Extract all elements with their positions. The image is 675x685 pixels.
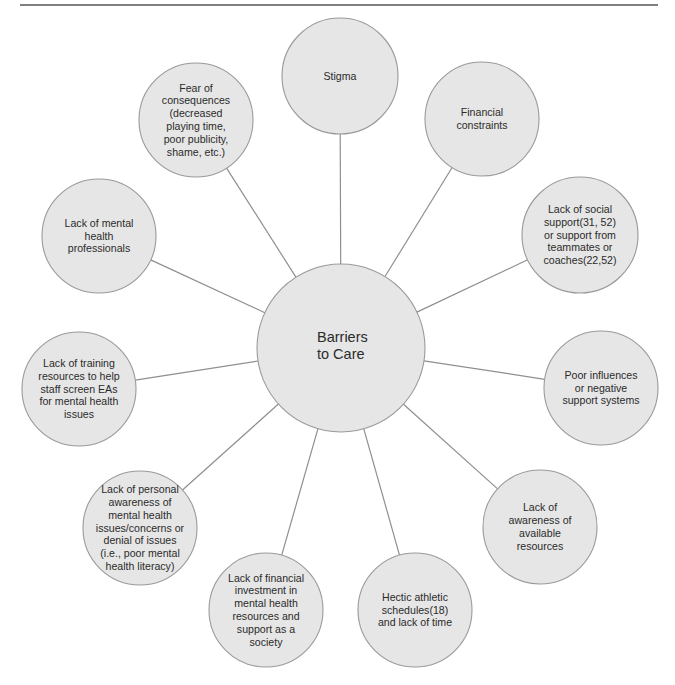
node-label-line: awareness of: [108, 496, 171, 508]
node-label-line: Hectic athletic: [382, 591, 449, 603]
node-label-line: issues: [64, 408, 94, 420]
node-label-line: support(31, 52): [544, 216, 616, 228]
node-label-line: health literacy): [106, 560, 175, 572]
node-label-line: constraints: [456, 119, 507, 131]
node-label-line: shame, etc.): [167, 146, 225, 158]
barriers-to-care-diagram: StigmaFinancialconstraintsLack of social…: [0, 0, 675, 685]
node-label-line: resources to help: [38, 370, 119, 382]
node-label-line: Lack of personal: [101, 483, 179, 495]
node-label: Lack of personalawareness ofmental healt…: [96, 483, 185, 572]
connector-financial-investment: [282, 429, 318, 555]
node-label-line: Poor influences: [564, 369, 637, 381]
node-label: Lack of socialsupport(31, 52)or support …: [543, 203, 616, 266]
node-label-line: resources and: [232, 610, 299, 622]
connector-mental-health-professionals: [151, 260, 265, 313]
connector-financial-constraints: [385, 168, 452, 277]
node-label-line: denial of issues: [103, 534, 176, 546]
node-financial-investment: Lack of financialinvestment inmental hea…: [209, 553, 323, 667]
node-label-line: available: [519, 527, 561, 539]
node-label-line: investment in: [235, 584, 298, 596]
connector-social-support: [417, 260, 528, 312]
connector-fear-of-consequences: [227, 168, 296, 277]
node-label-line: coaches(22,52): [543, 254, 616, 266]
connector-training-resources: [135, 361, 258, 380]
node-social-support: Lack of socialsupport(31, 52)or support …: [522, 177, 638, 293]
node-label: Hectic athleticschedules(18)and lack of …: [378, 591, 452, 629]
node-label-line: Stigma: [324, 70, 357, 82]
node-label-line: consequences: [162, 94, 230, 106]
node-label-line: staff screen EAs: [41, 383, 118, 395]
node-label-line: mental health: [234, 597, 298, 609]
connector-personal-awareness: [183, 404, 279, 490]
connector-awareness-resources: [404, 404, 498, 489]
node-fear-of-consequences: Fear ofconsequences(decreasedplaying tim…: [139, 63, 253, 177]
node-label-line: mental health: [108, 509, 172, 521]
node-hectic-schedules: Hectic athleticschedules(18)and lack of …: [358, 553, 472, 667]
node-financial-constraints: Financialconstraints: [425, 62, 539, 176]
node-label-line: society: [250, 636, 284, 648]
center-node: Barriers to Care: [257, 264, 425, 432]
node-label-line: health: [85, 230, 114, 242]
node-label-line: professionals: [68, 242, 130, 254]
center-label: Barriers to Care: [317, 329, 372, 362]
node-label-line: poor publicity,: [164, 133, 229, 145]
node-label-line: resources: [517, 540, 564, 552]
node-poor-influences: Poor influencesor negativesupport system…: [544, 331, 658, 445]
node-label-line: Financial: [461, 106, 503, 118]
node-label: Financialconstraints: [456, 106, 507, 131]
node-label-line: Lack of: [523, 501, 557, 513]
node-label-line: or support from: [544, 229, 616, 241]
node-label-line: Lack of training: [43, 357, 115, 369]
node-label-line: and lack of time: [378, 616, 452, 628]
node-label-line: playing time,: [166, 120, 225, 132]
node-mental-health-professionals: Lack of mentalhealthprofessionals: [42, 179, 156, 293]
connector-poor-influences: [424, 361, 545, 380]
node-label-line: schedules(18): [382, 604, 449, 616]
node-label-line: awareness of: [508, 514, 571, 526]
node-label-line: (decreased: [170, 107, 223, 119]
node-personal-awareness: Lack of personalawareness ofmental healt…: [83, 471, 197, 585]
center-label-line: to Care: [317, 346, 365, 362]
node-label: Stigma: [324, 70, 357, 82]
node-label-line: support systems: [562, 394, 639, 406]
node-training-resources: Lack of trainingresources to helpstaff s…: [22, 332, 136, 446]
node-label-line: support as a: [237, 623, 295, 635]
node-label-line: Lack of mental: [65, 217, 134, 229]
node-label-line: issues/concerns or: [96, 522, 185, 534]
node-awareness-resources: Lack ofawareness ofavailableresources: [483, 470, 597, 584]
node-label-line: (i.e., poor mental: [100, 547, 180, 559]
center-label-line: Barriers: [317, 329, 368, 345]
node-label-line: teammates or: [548, 241, 613, 253]
connector-hectic-schedules: [364, 429, 400, 555]
node-label-line: Lack of social: [548, 203, 612, 215]
node-label-line: Lack of financial: [228, 572, 304, 584]
node-label-line: or negative: [575, 382, 628, 394]
connector-stigma: [340, 134, 341, 264]
node-label-line: for mental health: [40, 395, 119, 407]
node-stigma: Stigma: [282, 18, 398, 134]
node-label-line: Fear of: [179, 82, 213, 94]
